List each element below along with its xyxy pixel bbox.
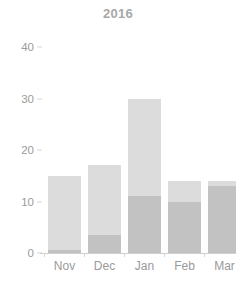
x-axis-tick-mark — [204, 253, 205, 257]
bar-mar[interactable] — [208, 181, 236, 253]
bar-segment-lower[interactable] — [128, 196, 161, 253]
x-axis-tick-mark — [44, 253, 45, 257]
bar-feb[interactable] — [168, 181, 201, 253]
x-axis-label-feb: Feb — [168, 259, 201, 273]
bar-segment-upper[interactable] — [88, 165, 121, 235]
x-axis-tick-mark — [124, 253, 125, 257]
bars-layer — [0, 0, 236, 287]
bar-segment-lower[interactable] — [48, 250, 81, 253]
x-axis-label-dec: Dec — [88, 259, 121, 273]
bar-segment-upper[interactable] — [168, 181, 201, 202]
bar-jan[interactable] — [128, 99, 161, 254]
bar-segment-upper[interactable] — [48, 176, 81, 251]
chart-container: 2016 010203040 NovDecJanFebMar — [0, 0, 236, 287]
bar-dec[interactable] — [88, 165, 121, 253]
x-axis-label-mar: Mar — [208, 259, 236, 273]
x-axis-tick-mark — [164, 253, 165, 257]
bar-segment-lower[interactable] — [168, 202, 201, 254]
bar-segment-lower[interactable] — [208, 186, 236, 253]
bar-segment-lower[interactable] — [88, 235, 121, 253]
x-axis-label-jan: Jan — [128, 259, 161, 273]
x-axis-tick-mark — [84, 253, 85, 257]
bar-nov[interactable] — [48, 176, 81, 253]
bar-segment-upper[interactable] — [128, 99, 161, 197]
x-axis-label-nov: Nov — [48, 259, 81, 273]
